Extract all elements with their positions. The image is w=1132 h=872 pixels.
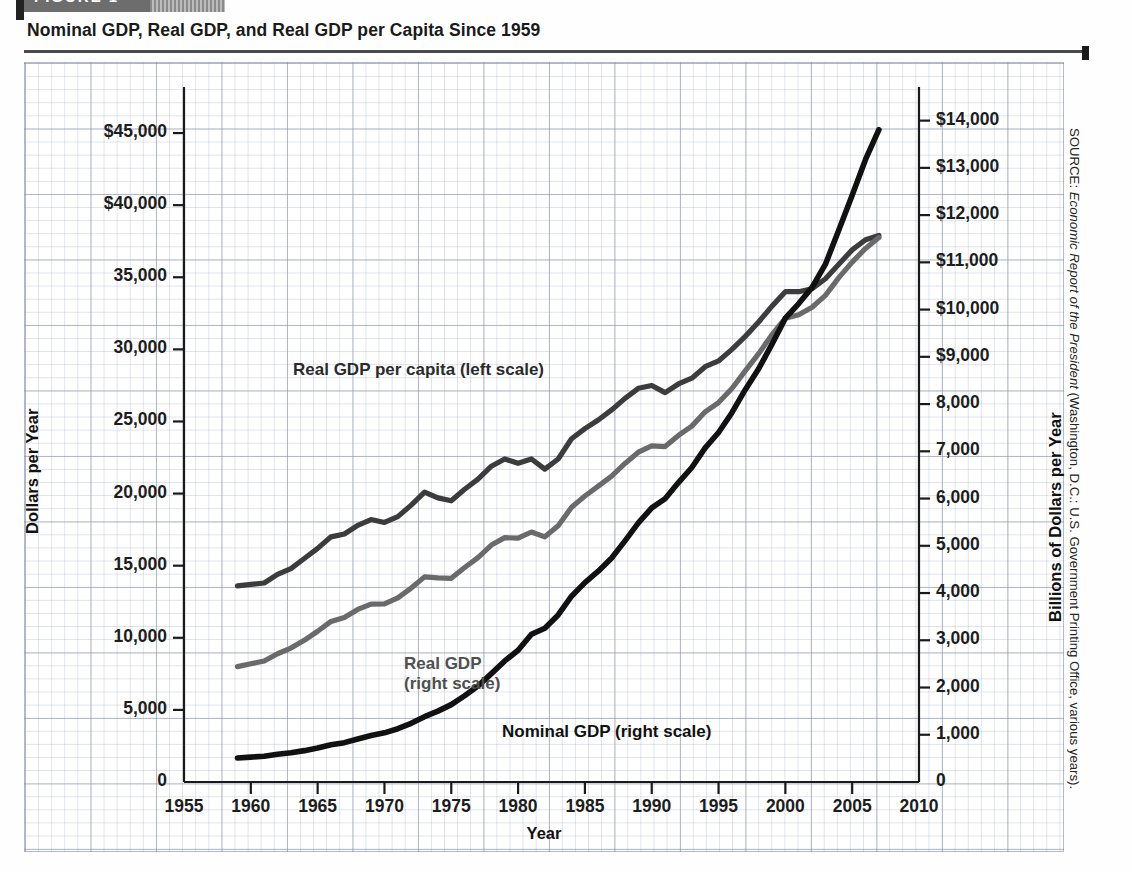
y-axis-right-tick-label: $9,000	[936, 345, 990, 366]
y-axis-left-tick-label: 5,000	[39, 698, 167, 719]
title-divider	[24, 50, 1086, 53]
series-label-real-gdp-per-capita: Real GDP per capita (left scale)	[293, 360, 544, 380]
y-axis-right-title: Billions of Dollars per Year	[1046, 412, 1065, 622]
page-title: Nominal GDP, Real GDP, and Real GDP per …	[27, 20, 540, 41]
series-line-0	[237, 235, 878, 585]
x-axis-tick-label: 2010	[879, 796, 959, 817]
series-layer	[237, 130, 878, 758]
y-axis-right-tick-label: $14,000	[936, 109, 999, 130]
chart-area: Dollars per Year Billions of Dollars per…	[24, 62, 1064, 852]
y-axis-right-tick-label: $10,000	[936, 298, 999, 319]
title-divider-endcap	[1082, 46, 1089, 60]
axes-layer	[173, 87, 930, 794]
figure-corner-mark	[16, 0, 24, 20]
series-line-2	[237, 130, 878, 758]
source-note: SOURCE: Economic Report of the President…	[1067, 128, 1082, 828]
series-label-line: (right scale)	[404, 674, 500, 694]
y-axis-right-tick-label: 6,000	[936, 487, 980, 508]
y-axis-right-tick-label: $11,000	[936, 250, 998, 271]
figure-tab-label: FIGURE 1	[34, 0, 119, 5]
y-axis-right-tick-label: 8,000	[936, 392, 980, 413]
series-label-line: Real GDP	[404, 654, 500, 674]
y-axis-left-tick-label: 0	[39, 770, 167, 791]
source-prefix: SOURCE:	[1067, 128, 1082, 192]
y-axis-left-tick-label: 30,000	[39, 337, 167, 358]
y-axis-left-tick-label: $45,000	[39, 121, 167, 142]
y-axis-left-tick-label: 35,000	[39, 265, 167, 286]
y-axis-right-tick-label: $12,000	[936, 203, 999, 224]
x-axis-title: Year	[24, 824, 1064, 843]
source-suffix: (Washington, D.C.: U.S. Government Print…	[1067, 389, 1082, 789]
y-axis-left-tick-label: $40,000	[39, 193, 167, 214]
y-axis-left-tick-label: 20,000	[39, 482, 167, 503]
series-line-1	[237, 238, 878, 667]
y-axis-right-tick-label: 1,000	[936, 723, 980, 744]
figure-page: FIGURE 1 Nominal GDP, Real GDP, and Real…	[0, 0, 1132, 872]
y-axis-left-tick-label: 10,000	[39, 626, 167, 647]
y-axis-right-tick-label: 3,000	[936, 628, 980, 649]
y-axis-right-tick-label: 4,000	[936, 581, 980, 602]
y-axis-right-tick-label: 5,000	[936, 534, 980, 555]
series-label-nominal-gdp: Nominal GDP (right scale)	[502, 722, 711, 742]
series-label-real-gdp: Real GDP(right scale)	[404, 654, 500, 694]
y-axis-right-tick-label: 2,000	[936, 676, 980, 697]
y-axis-right-tick-label: $13,000	[936, 156, 999, 177]
source-title: Economic Report of the President	[1067, 192, 1082, 389]
figure-tab-hatch	[150, 0, 225, 12]
y-axis-right-tick-label: 0	[936, 770, 946, 791]
y-axis-left-tick-label: 15,000	[39, 554, 167, 575]
y-axis-right-tick-label: 7,000	[936, 439, 980, 460]
y-axis-left-tick-label: 25,000	[39, 409, 167, 430]
